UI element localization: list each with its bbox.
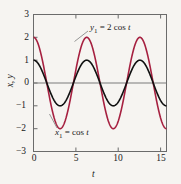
x-tick-label-15: 15 [153,154,169,164]
y-tick-label-neg3: −3 [10,147,26,157]
y-tick-label-1: 1 [13,56,29,66]
annotation-x1: x1 = cos t [55,128,89,140]
y-tick-label-3: 3 [13,10,29,20]
leader-line-y1 [75,31,89,42]
annotation-y1-rest: = 2 cos [98,22,129,32]
x-tick-label-0: 0 [26,154,42,164]
annotation-x1-tvar: t [86,127,89,137]
annotation-y1-tvar: t [128,22,131,32]
x-axis-title: t [92,170,95,180]
x-tick-label-10: 10 [110,154,126,164]
figure-container: 3 2 1 0 −1 −2 −3 0 5 10 15 x, y t y1 = 2… [0,0,181,184]
y-tick-label-2: 2 [13,33,29,43]
y-axis-title-y: y [5,74,15,78]
y-tick-label-neg2: −2 [10,124,26,134]
annotation-x1-rest: = cos [63,127,87,137]
annotation-y1: y1 = 2 cos t [90,23,131,35]
y-axis-title: x, y [6,66,16,96]
y-axis-title-comma: , [5,78,15,83]
y-axis-title-x: x [5,83,15,87]
y-tick-label-neg1: −1 [10,101,26,111]
x-tick-label-5: 5 [68,154,84,164]
